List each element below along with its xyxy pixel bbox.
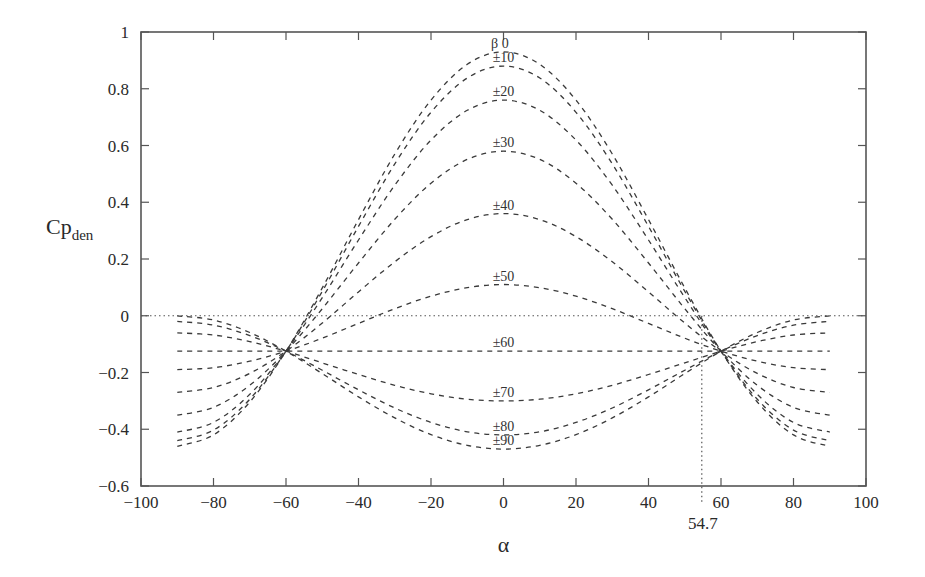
curve-label: ±70 — [493, 385, 515, 400]
y-axis-title: Cpden — [46, 214, 94, 243]
y-tick-label: 1 — [121, 23, 130, 42]
y-tick-label: −0.6 — [98, 477, 129, 496]
x-tick-label: −80 — [200, 493, 227, 512]
curve-label: β 0 — [491, 36, 509, 51]
curve-label: ±40 — [493, 198, 515, 213]
x-tick-label: 80 — [785, 493, 802, 512]
y-tick-label: 0 — [121, 307, 130, 326]
x-tick-label: 20 — [568, 493, 585, 512]
x-tick-label: 60 — [713, 493, 730, 512]
curve-labels: β 0±10±20±30±40±50±60±70±80±90 — [491, 36, 514, 448]
x-axis-title: α — [498, 532, 510, 557]
curve-label: ±30 — [493, 135, 515, 150]
x-tick-label: 0 — [499, 493, 508, 512]
y-axis: −0.6−0.4−0.200.20.40.60.81 — [98, 23, 866, 496]
y-axis-title-subscript: den — [72, 227, 94, 243]
y-tick-label: 0.8 — [108, 80, 129, 99]
y-tick-label: −0.2 — [98, 364, 129, 383]
y-tick-label: −0.4 — [98, 420, 129, 439]
vertical-marker-label: 54.7 — [688, 514, 718, 533]
y-axis-title-main: Cp — [46, 214, 72, 239]
curve-label: ±50 — [493, 269, 515, 284]
x-tick-label: 40 — [640, 493, 657, 512]
x-tick-label: −60 — [273, 493, 300, 512]
curve-label: ±60 — [493, 335, 515, 350]
curve-label: ±90 — [493, 433, 515, 448]
curve-50 — [177, 285, 830, 370]
curve-label: ±10 — [493, 50, 515, 65]
curve-label: ±80 — [493, 419, 515, 434]
line-chart: −100−80−60−40−20020406080100 −0.6−0.4−0.… — [0, 0, 925, 577]
y-tick-label: 0.6 — [108, 137, 129, 156]
y-tick-label: 0.2 — [108, 250, 129, 269]
x-tick-label: −40 — [345, 493, 372, 512]
curve-label: ±20 — [493, 84, 515, 99]
x-tick-label: −20 — [418, 493, 445, 512]
x-tick-label: 100 — [853, 493, 879, 512]
y-tick-label: 0.4 — [108, 193, 130, 212]
